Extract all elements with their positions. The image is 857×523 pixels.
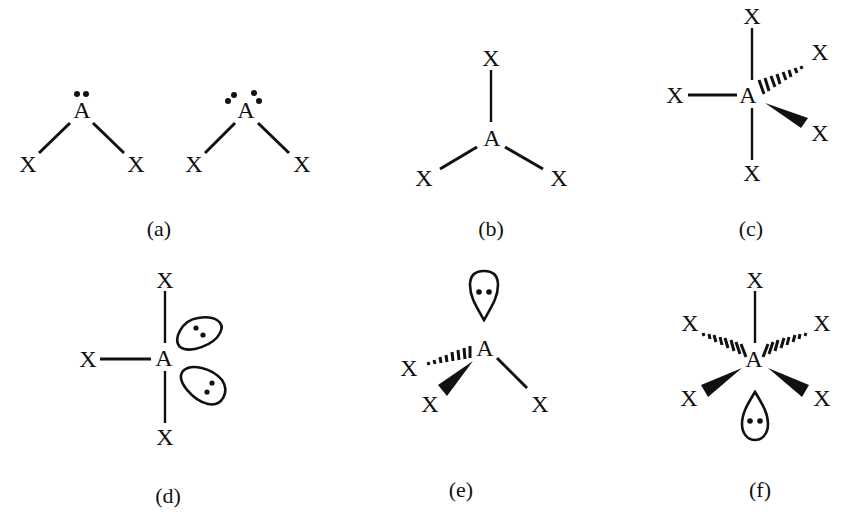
- ligand-x: X: [811, 120, 828, 146]
- structure-c-trigonal-bipyramidal: X A X X X X: [666, 3, 828, 186]
- wedge-bond: [438, 361, 473, 396]
- hashed-bond: [763, 333, 806, 357]
- central-atom-a: A: [476, 335, 494, 361]
- panel-label-a: (a): [147, 216, 171, 241]
- lone-pair-lobe: [181, 367, 225, 404]
- lone-pair-dot: [251, 90, 257, 96]
- ligand-x: X: [293, 151, 310, 177]
- bond: [505, 147, 543, 169]
- wedge-bond: [768, 368, 809, 397]
- structure-f-square-pyramidal: X A X X X X: [680, 267, 830, 440]
- ligand-x: X: [421, 391, 438, 417]
- lone-pair-dot: [256, 98, 262, 104]
- ligand-x: X: [531, 391, 548, 417]
- structure-a-bent-two-lone-pairs: A X X: [185, 90, 310, 177]
- vsepr-diagram: A X X A X X (a) X A X X (b) X A X: [0, 0, 857, 523]
- hashed-bond: [428, 346, 470, 365]
- bond: [440, 147, 477, 169]
- ligand-x: X: [743, 160, 760, 186]
- bond: [258, 123, 289, 153]
- ligand-x: X: [185, 151, 202, 177]
- bond: [497, 358, 527, 388]
- central-atom-a: A: [237, 97, 255, 123]
- central-atom-a: A: [483, 125, 501, 151]
- panel-label-c: (c): [739, 216, 763, 241]
- structure-e-trigonal-pyramidal: A X X X: [400, 271, 548, 417]
- ligand-x: X: [681, 310, 698, 336]
- ligand-x: X: [156, 424, 173, 450]
- ligand-x: X: [482, 45, 499, 71]
- panel-label-e: (e): [449, 477, 473, 502]
- structure-d-t-shaped: X A X X: [79, 267, 225, 450]
- wedge-bond: [701, 368, 742, 397]
- lone-pair-lobe: [742, 392, 768, 440]
- ligand-x: X: [680, 385, 697, 411]
- ligand-x: X: [127, 151, 144, 177]
- central-atom-a: A: [155, 345, 173, 371]
- ligand-x: X: [813, 385, 830, 411]
- ligand-x: X: [19, 151, 36, 177]
- structure-b-trigonal-planar: X A X X: [415, 45, 567, 191]
- bond: [205, 123, 235, 153]
- ligand-x: X: [156, 267, 173, 293]
- ligand-x: X: [811, 39, 828, 65]
- hashed-bond: [759, 66, 802, 94]
- ligand-x: X: [550, 165, 567, 191]
- ligand-x: X: [743, 3, 760, 29]
- panel-label-d: (d): [155, 483, 181, 508]
- lone-pair-lobe: [177, 317, 221, 349]
- ligand-x: X: [746, 267, 763, 293]
- lone-pair-lobe: [470, 271, 498, 320]
- ligand-x: X: [415, 165, 432, 191]
- lone-pair-dot: [225, 98, 231, 104]
- ligand-x: X: [666, 82, 683, 108]
- ligand-x: X: [79, 346, 96, 372]
- lone-pair-dot: [231, 92, 237, 98]
- panel-label-f: (f): [749, 477, 771, 502]
- panel-label-b: (b): [478, 216, 504, 241]
- central-atom-a: A: [745, 346, 763, 372]
- structure-a-bent-one-lone-pair: A X X: [19, 91, 144, 177]
- wedge-bond: [765, 103, 808, 128]
- ligand-x: X: [400, 355, 417, 381]
- hashed-bond: [703, 333, 746, 357]
- bond: [39, 123, 70, 153]
- central-atom-a: A: [73, 97, 91, 123]
- ligand-x: X: [813, 310, 830, 336]
- central-atom-a: A: [739, 82, 757, 108]
- bond: [93, 123, 124, 153]
